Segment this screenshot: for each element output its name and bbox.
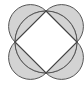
lune-diagram: [0, 0, 84, 85]
